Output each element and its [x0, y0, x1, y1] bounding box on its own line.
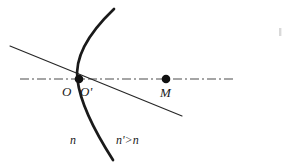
label-point-m: M	[160, 86, 171, 99]
label-point-o: O	[62, 85, 71, 98]
label-point-o-prime: O'	[80, 85, 92, 98]
label-index-n-prime: n'>n	[116, 134, 139, 146]
point-M-marker	[162, 75, 171, 84]
oblique-ray-line	[10, 46, 182, 116]
figure-canvas	[0, 0, 288, 165]
label-index-n: n	[70, 134, 76, 146]
optics-figure: O O' M n n'>n	[0, 0, 288, 165]
scan-speck-icon	[279, 28, 281, 36]
point-O-marker	[75, 75, 84, 84]
